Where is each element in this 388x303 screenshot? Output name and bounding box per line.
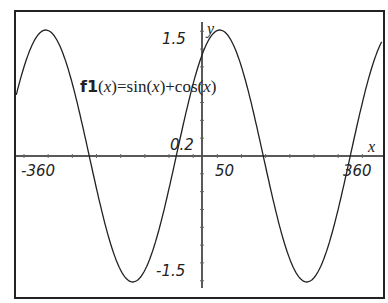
x-min-label: -360 [21,162,55,180]
y-axis-variable: y [205,20,215,38]
function-name: f1 [80,77,98,96]
function-label[interactable]: f1(x)=sin(x)+cos(x) [80,77,216,96]
graph-canvas: 1.5 0.2 -1.5 -360 50 360 x y f1(x)=sin(x… [0,0,388,303]
y-max-label: 1.5 [162,30,186,48]
y-min-label: -1.5 [156,262,185,280]
y-tick-label: 0.2 [170,136,194,154]
x-tick-label: 50 [215,162,234,180]
x-max-label: 360 [343,162,372,180]
x-axis-variable: x [367,138,375,155]
